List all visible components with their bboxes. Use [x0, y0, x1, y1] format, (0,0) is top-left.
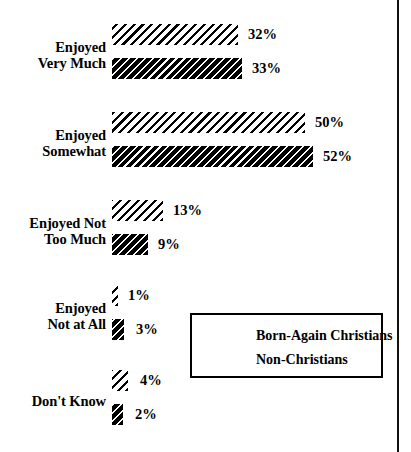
bar-value-non-christian-enjoyed-somewhat: 52%: [323, 147, 352, 166]
category-group-enjoyed-not-too-much: Enjoyed Not Too Much 13% 9%: [0, 200, 397, 268]
bar-value-born-again-enjoyed-not-at-all: 1%: [128, 286, 150, 305]
category-label-line1: Don't Know: [0, 393, 106, 409]
bar-born-again-dont-know: [112, 370, 128, 391]
page-border-rule: [397, 0, 399, 452]
chart-legend: Born-Again Christians Non-Christians: [190, 313, 383, 378]
bar-value-non-christian-enjoyed-very-much: 33%: [252, 59, 281, 78]
category-label-enjoyed-not-at-all: Enjoyed Not at All: [0, 300, 106, 332]
category-label-line2: Very Much: [0, 55, 106, 71]
bar-value-born-again-enjoyed-very-much: 32%: [248, 25, 277, 44]
bar-born-again-enjoyed-very-much: [112, 24, 238, 45]
category-group-enjoyed-very-much: Enjoyed Very Much 32% 33%: [0, 24, 397, 92]
category-label-enjoyed-not-too-much: Enjoyed Not Too Much: [0, 215, 106, 247]
category-label-line1: Enjoyed: [0, 39, 106, 55]
category-label-line1: Enjoyed: [0, 127, 106, 143]
bar-non-christian-dont-know: [112, 404, 123, 425]
legend-item-born-again-christians: Born-Again Christians: [205, 327, 393, 343]
category-label-line2: Not at All: [0, 316, 106, 332]
bar-value-born-again-enjoyed-somewhat: 50%: [315, 113, 344, 132]
plot-area: Enjoyed Very Much 32% 33% Enjoyed Somewh…: [0, 0, 397, 452]
bar-non-christian-enjoyed-somewhat: [112, 146, 313, 167]
bar-non-christian-enjoyed-not-too-much: [112, 234, 148, 255]
category-label-line2: Too Much: [0, 231, 106, 247]
bar-born-again-enjoyed-somewhat: [112, 112, 305, 133]
category-group-dont-know: Don't Know 4% 2%: [0, 370, 397, 438]
bar-value-non-christian-dont-know: 2%: [135, 405, 157, 424]
category-group-enjoyed-somewhat: Enjoyed Somewhat 50% 52%: [0, 112, 397, 180]
bar-non-christian-enjoyed-not-at-all: [112, 319, 124, 340]
bar-value-non-christian-enjoyed-not-at-all: 3%: [136, 320, 158, 339]
category-label-enjoyed-somewhat: Enjoyed Somewhat: [0, 127, 106, 159]
bar-chart: Enjoyed Very Much 32% 33% Enjoyed Somewh…: [0, 0, 411, 452]
category-label-enjoyed-very-much: Enjoyed Very Much: [0, 39, 106, 71]
legend-swatch-non-christian-icon: [205, 352, 243, 366]
bar-value-born-again-enjoyed-not-too-much: 13%: [173, 201, 202, 220]
legend-label-non-christians: Non-Christians: [256, 352, 348, 367]
category-label-dont-know: Don't Know: [0, 393, 106, 409]
bar-non-christian-enjoyed-very-much: [112, 58, 242, 79]
bar-born-again-enjoyed-not-at-all: [112, 285, 118, 306]
category-label-line2: Somewhat: [0, 143, 106, 159]
legend-item-non-christians: Non-Christians: [205, 351, 348, 367]
bar-value-born-again-dont-know: 4%: [140, 371, 162, 390]
category-label-line1: Enjoyed Not: [0, 215, 106, 231]
bar-value-non-christian-enjoyed-not-too-much: 9%: [158, 235, 180, 254]
category-label-line1: Enjoyed: [0, 300, 106, 316]
bar-born-again-enjoyed-not-too-much: [112, 200, 163, 221]
legend-label-born-again-christians: Born-Again Christians: [256, 328, 393, 343]
legend-swatch-born-again-icon: [205, 328, 243, 342]
